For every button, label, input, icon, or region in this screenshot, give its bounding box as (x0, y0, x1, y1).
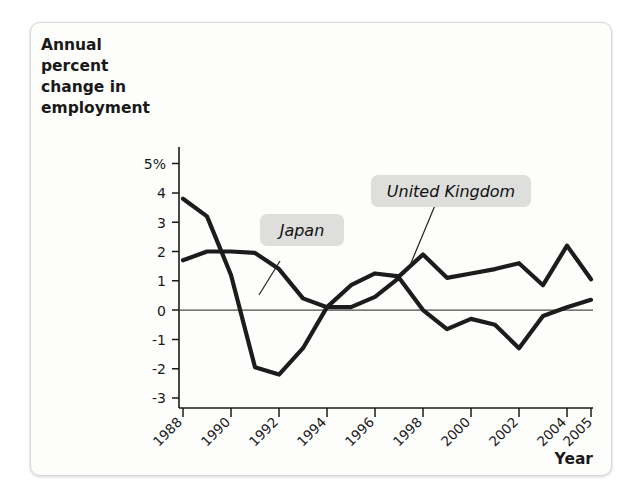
x-tick-label: 2002 (486, 414, 522, 450)
x-axis-title: Year (554, 450, 594, 468)
y-axis-title-line-4: employment (41, 99, 151, 117)
y-tick-label: 2 (157, 244, 166, 260)
x-tick-label: 2000 (438, 414, 474, 450)
y-tick-label: 1 (157, 273, 166, 289)
annotation-japan: Japan (259, 214, 344, 295)
annotation-united-kingdom: United Kingdom (371, 175, 531, 263)
y-tick-group: 5% 4 3 2 1 0 -1 -2 -3 (144, 156, 179, 406)
x-tick-label: 1990 (198, 414, 234, 450)
y-axis-title-line-1: Annual (41, 36, 102, 54)
chart-figure: Annual percent change in employment 5% 4… (30, 22, 612, 476)
y-tick-label: 3 (157, 215, 166, 231)
y-axis-title: Annual percent change in employment (41, 36, 151, 117)
x-tick-label: 1998 (390, 414, 426, 450)
x-tick-label: 2005 (560, 414, 596, 450)
y-axis-title-line-2: percent (41, 57, 109, 75)
series-label-united-kingdom: United Kingdom (387, 182, 515, 201)
y-axis-title-line-3: change in (41, 78, 126, 96)
x-tick-label: 1996 (342, 414, 378, 450)
x-tick-label: 1992 (246, 414, 282, 450)
y-tick-label: -1 (152, 332, 166, 348)
y-tick-label: -2 (152, 361, 166, 377)
y-tick-label: 0 (157, 303, 166, 319)
x-tick-label: 1994 (294, 414, 330, 450)
x-tick-label: 2004 (534, 414, 570, 450)
employment-line-chart: Annual percent change in employment 5% 4… (31, 23, 611, 475)
y-tick-label: 4 (157, 185, 166, 201)
series-label-japan: Japan (277, 221, 325, 240)
x-tick-group: 1988 1990 1992 1994 1996 1998 2000 2002 … (150, 408, 596, 449)
y-tick-label: -3 (152, 390, 166, 406)
leader-line-japan (259, 261, 280, 295)
y-tick-label: 5% (144, 156, 166, 172)
x-tick-label: 1988 (150, 414, 186, 450)
